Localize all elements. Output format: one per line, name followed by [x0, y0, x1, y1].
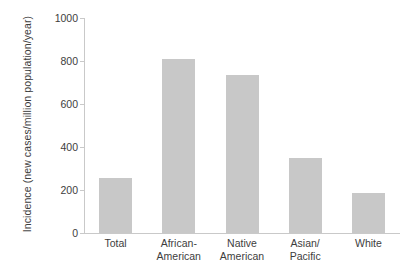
bar — [99, 178, 132, 233]
bar — [162, 59, 195, 233]
bars-layer — [84, 18, 400, 233]
y-axis-tick-label: 800 — [40, 56, 78, 67]
y-axis-tick-label: 600 — [40, 99, 78, 110]
bar-chart-figure: Incidence (new cases/million population/… — [0, 0, 414, 276]
x-axis-tick-label-line1: Native — [227, 237, 257, 249]
y-axis-tick-labels: 02004006008001000 — [40, 10, 78, 240]
plot-area — [84, 18, 400, 233]
y-axis-title: Incidence (new cases/million population/… — [18, 8, 36, 240]
x-axis-tick-label-line2: Pacific — [268, 250, 342, 263]
bar — [289, 158, 322, 233]
x-axis-tick-label-line1: Asian/ — [291, 237, 320, 249]
y-axis-tick-mark — [80, 147, 84, 148]
y-axis-tick-label: 1000 — [40, 13, 78, 24]
y-axis-tick-mark — [80, 233, 84, 234]
y-axis-tick-label: 400 — [40, 142, 78, 153]
x-axis-spine — [84, 233, 400, 234]
y-axis-tick-mark — [80, 104, 84, 105]
y-axis-tick-mark — [80, 61, 84, 62]
x-axis-tick-label: White — [331, 237, 405, 250]
x-axis-tick-label-line1: Total — [105, 237, 127, 249]
x-axis-tick-labels: TotalAfrican-AmericanNativeAmericanAsian… — [84, 237, 400, 275]
bar — [226, 75, 259, 233]
bar — [352, 193, 385, 233]
x-axis-tick-label-line1: White — [355, 237, 382, 249]
y-axis-tick-mark — [80, 190, 84, 191]
y-axis-tick-mark — [80, 18, 84, 19]
y-axis-tick-label: 0 — [40, 228, 78, 239]
x-axis-tick-label-line1: African- — [161, 237, 197, 249]
y-axis-tick-label: 200 — [40, 185, 78, 196]
